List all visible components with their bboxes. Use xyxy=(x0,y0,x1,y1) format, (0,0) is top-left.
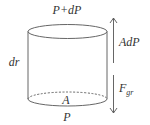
arrow-down-icon xyxy=(110,75,117,113)
gravity-force-label: Fgr xyxy=(118,81,134,97)
pressure-force-label: AdP xyxy=(118,35,140,49)
top-pressure-label: P+dP xyxy=(52,3,82,17)
gravity-force-subscript: gr xyxy=(126,88,134,97)
height-label: dr xyxy=(9,55,20,69)
area-label: A xyxy=(61,93,70,107)
cylinder-diagram: P+dP P dr A AdP Fgr xyxy=(0,0,150,125)
bottom-pressure-label: P xyxy=(62,110,71,124)
top-face xyxy=(28,25,107,39)
arrow-up-icon xyxy=(110,18,117,63)
